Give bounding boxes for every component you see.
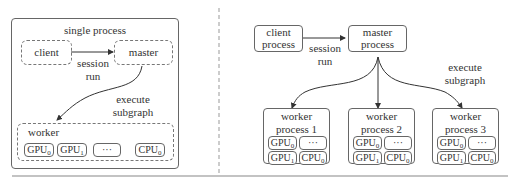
wp1-device-gpu0: GPU0 — [268, 136, 297, 150]
client-label: client — [21, 46, 72, 58]
worker-process-1-line1: worker — [263, 110, 330, 122]
right-edge-label-subgraph: subgraph — [440, 74, 490, 86]
right-edge-label-execute: execute — [440, 61, 490, 73]
worker-process-3-line2: process 3 — [432, 123, 499, 135]
wp3-device-cpu0: CPU0 — [468, 151, 496, 165]
edge-label-subgraph: subgraph — [108, 106, 158, 118]
master-label: master — [114, 46, 173, 58]
master-process-line2: process — [348, 38, 407, 50]
wp2-device-cpu0: CPU0 — [384, 151, 412, 165]
device-gpu1: GPU1 — [57, 143, 87, 157]
right-edge-label-session: session — [304, 42, 346, 54]
wp1-device-gpu1: GPU1 — [268, 151, 297, 165]
wp1-device-cpu0: CPU0 — [299, 151, 327, 165]
worker-process-2-line1: worker — [348, 110, 415, 122]
wp2-device-gpu1: GPU1 — [353, 151, 382, 165]
client-process-line1: client — [254, 26, 303, 38]
device-cpu0: CPU0 — [135, 143, 165, 157]
wp3-device-gpu1: GPU1 — [437, 151, 466, 165]
worker-process-2-line2: process 2 — [348, 123, 415, 135]
wp1-device-ellipsis: ··· — [299, 136, 327, 150]
master-process-line1: master — [348, 26, 407, 38]
device-gpu0: GPU0 — [24, 143, 54, 157]
edge-label-session: session — [72, 57, 114, 69]
worker-process-1-line2: process 1 — [263, 123, 330, 135]
edge-label-execute: execute — [108, 93, 158, 105]
worker-process-3-line1: worker — [432, 110, 499, 122]
right-edge-label-run: run — [304, 55, 346, 67]
wp2-device-gpu0: GPU0 — [353, 136, 382, 150]
client-process-line2: process — [254, 38, 303, 50]
wp2-device-ellipsis: ··· — [384, 136, 412, 150]
single-process-title: single process — [11, 24, 179, 36]
device-ellipsis: ··· — [93, 143, 121, 157]
edge-label-run: run — [72, 70, 114, 82]
wp3-device-gpu0: GPU0 — [437, 136, 466, 150]
worker-label: worker — [28, 126, 59, 138]
wp3-device-ellipsis: ··· — [468, 136, 496, 150]
